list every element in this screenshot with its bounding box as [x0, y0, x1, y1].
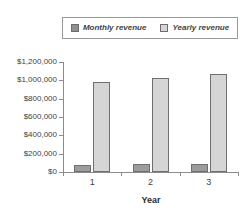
y-axis-tick-label: $200,000	[24, 150, 57, 158]
x-axis-tick-label: 1	[90, 178, 95, 187]
y-axis-tick	[59, 154, 63, 155]
x-axis-tick-label: 2	[148, 178, 153, 187]
y-axis-tick-label: $1,200,000	[17, 58, 57, 66]
y-axis-tick	[59, 80, 63, 81]
bar-yearly-revenue-2	[152, 78, 169, 172]
bar-monthly-revenue-1	[74, 165, 91, 172]
x-axis-tick	[180, 172, 181, 176]
plot-area: $1,200,000$1,000,000$800,000$600,000$400…	[63, 62, 238, 172]
x-axis-tick-label: 3	[206, 178, 211, 187]
y-axis-tick-label: $800,000	[24, 95, 57, 103]
x-axis-tick	[238, 172, 239, 176]
bar-monthly-revenue-3	[191, 164, 208, 172]
y-axis-tick-label: $600,000	[24, 113, 57, 121]
x-axis-tick	[121, 172, 122, 176]
x-axis-line	[63, 172, 239, 173]
y-axis-tick-label: $1,000,000	[17, 76, 57, 84]
chart-legend: Monthly revenue Yearly revenue	[62, 17, 238, 39]
bar-monthly-revenue-2	[133, 164, 150, 172]
legend-item-yearly-revenue: Yearly revenue	[160, 24, 229, 32]
legend-label-monthly-revenue: Monthly revenue	[83, 24, 147, 32]
legend-item-monthly-revenue: Monthly revenue	[71, 24, 147, 32]
x-axis-title: Year	[63, 196, 239, 205]
legend-swatch-icon	[160, 24, 168, 32]
y-axis-tick	[59, 99, 63, 100]
legend-swatch-icon	[71, 24, 79, 32]
legend-label-yearly-revenue: Yearly revenue	[172, 24, 229, 32]
bar-yearly-revenue-3	[210, 74, 227, 172]
y-axis-tick	[59, 62, 63, 63]
y-axis-tick-label: $400,000	[24, 131, 57, 139]
y-axis-tick	[59, 117, 63, 118]
y-axis-tick	[59, 135, 63, 136]
y-axis-tick-label: $0	[48, 168, 57, 176]
bar-chart: Monthly revenue Yearly revenue $1,200,00…	[0, 0, 246, 220]
bar-yearly-revenue-1	[93, 82, 110, 172]
x-axis-tick	[63, 172, 64, 176]
